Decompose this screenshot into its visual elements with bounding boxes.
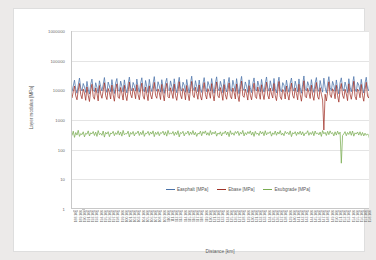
x-tick-mark: [111, 210, 112, 212]
y-tick-label: 1000000: [48, 29, 65, 34]
y-tick-label: 100000: [50, 58, 65, 63]
x-tick-mark: [312, 210, 313, 212]
x-tick-mark: [195, 210, 196, 212]
x-tick-mark: [178, 210, 179, 212]
x-tick-mark: [321, 210, 322, 212]
x-tick-mark: [123, 210, 124, 212]
x-tick-mark: [212, 210, 213, 212]
x-tick-mark: [249, 210, 250, 212]
x-tick-mark: [367, 210, 368, 212]
x-tick-label: 158.100: [368, 210, 372, 222]
x-tick-mark: [94, 210, 95, 212]
series-line-esubgrade: [72, 130, 369, 163]
x-tick-mark: [165, 210, 166, 212]
x-tick-mark: [359, 210, 360, 212]
x-tick-mark: [224, 210, 225, 212]
legend-swatch-ebase: [217, 189, 226, 190]
x-tick-mark: [203, 210, 204, 212]
legend-swatch-esubgrade: [263, 189, 272, 190]
x-tick-mark: [317, 210, 318, 212]
x-tick-mark: [287, 210, 288, 212]
x-tick-mark: [342, 210, 343, 212]
x-tick-mark: [354, 210, 355, 212]
x-tick-mark: [233, 210, 234, 212]
x-tick-mark: [258, 210, 259, 212]
x-tick-mark: [346, 210, 347, 212]
x-tick-mark: [300, 210, 301, 212]
x-axis-title: Distance [km]: [71, 249, 369, 254]
series-lines: [72, 31, 369, 209]
x-tick-mark: [241, 210, 242, 212]
x-tick-mark: [308, 210, 309, 212]
legend-item-ebase[interactable]: Ebase [MPa]: [217, 187, 254, 192]
x-tick-mark: [128, 210, 129, 212]
chart-page: 1000000100000100001000100101 Layer modul…: [0, 0, 376, 260]
x-tick-mark: [338, 210, 339, 212]
x-tick-mark: [207, 210, 208, 212]
x-tick-mark: [237, 210, 238, 212]
chart-card: 1000000100000100001000100101 Layer modul…: [13, 8, 365, 252]
x-tick-mark: [153, 210, 154, 212]
x-tick-mark: [170, 210, 171, 212]
x-tick-mark: [144, 210, 145, 212]
x-tick-mark: [279, 210, 280, 212]
series-line-ebase: [72, 81, 369, 130]
legend-label-esubgrade: Esubgrade [MPa]: [274, 187, 310, 192]
x-tick-mark: [77, 210, 78, 212]
x-tick-mark: [199, 210, 200, 212]
x-tick-mark: [350, 210, 351, 212]
x-tick-mark: [296, 210, 297, 212]
x-tick-mark: [107, 210, 108, 212]
x-tick-mark: [81, 210, 82, 212]
x-tick-mark: [325, 210, 326, 212]
y-tick-label: 100: [58, 147, 65, 152]
x-tick-mark: [157, 210, 158, 212]
x-tick-mark: [98, 210, 99, 212]
x-tick-mark: [275, 210, 276, 212]
x-tick-mark: [73, 210, 74, 212]
legend-item-esubgrade[interactable]: Esubgrade [MPa]: [263, 187, 310, 192]
x-tick-mark: [119, 210, 120, 212]
x-tick-mark: [245, 210, 246, 212]
y-tick-label: 10000: [53, 88, 65, 93]
x-tick-mark: [102, 210, 103, 212]
x-tick-mark: [291, 210, 292, 212]
x-tick-mark: [132, 210, 133, 212]
x-tick-mark: [149, 210, 150, 212]
x-tick-mark: [140, 210, 141, 212]
x-tick-mark: [254, 210, 255, 212]
legend-item-easphalt[interactable]: Easphalt [MPa]: [166, 187, 208, 192]
y-tick-label: 10: [60, 177, 65, 182]
x-tick-mark: [191, 210, 192, 212]
x-tick-mark: [182, 210, 183, 212]
x-tick-mark: [216, 210, 217, 212]
legend-swatch-easphalt: [166, 189, 175, 190]
x-tick-mark: [304, 210, 305, 212]
plot-area: [71, 31, 369, 209]
x-tick-mark: [186, 210, 187, 212]
x-tick-mark: [266, 210, 267, 212]
x-tick-mark: [363, 210, 364, 212]
legend-label-easphalt: Easphalt [MPa]: [177, 187, 208, 192]
x-tick-mark: [174, 210, 175, 212]
x-tick-mark: [90, 210, 91, 212]
x-tick-mark: [86, 210, 87, 212]
y-tick-label: 1: [63, 207, 65, 212]
x-tick-mark: [228, 210, 229, 212]
y-axis-title: Layer modulus [MPa]: [29, 53, 34, 163]
chart-legend: Easphalt [MPa] Ebase [MPa] Esubgrade [MP…: [166, 187, 310, 192]
x-tick-mark: [270, 210, 271, 212]
y-tick-label: 1000: [55, 118, 65, 123]
x-tick-mark: [115, 210, 116, 212]
x-tick-mark: [333, 210, 334, 212]
x-axis-tick-labels: 188.100189.100190.100191.100192.100193.1…: [71, 210, 369, 248]
x-tick-mark: [329, 210, 330, 212]
x-tick-mark: [161, 210, 162, 212]
x-tick-mark: [262, 210, 263, 212]
x-tick-mark: [136, 210, 137, 212]
legend-label-ebase: Ebase [MPa]: [228, 187, 254, 192]
x-tick-mark: [283, 210, 284, 212]
x-tick-mark: [220, 210, 221, 212]
